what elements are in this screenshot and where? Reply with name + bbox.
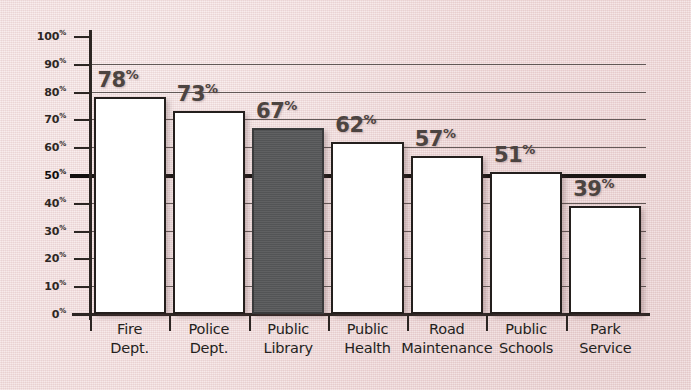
y-tick-40 bbox=[74, 203, 90, 205]
y-axis-label-10: 10% bbox=[20, 279, 66, 293]
y-axis-line bbox=[89, 30, 92, 320]
y-axis-label-0: 0% bbox=[20, 307, 66, 321]
value-label-3: 62% bbox=[335, 112, 376, 137]
value-label-2: 67% bbox=[256, 98, 297, 123]
bar-public-schools[interactable] bbox=[490, 172, 562, 314]
x-tick-5 bbox=[486, 316, 488, 331]
x-tick-2 bbox=[249, 316, 251, 331]
value-label-5: 51% bbox=[494, 142, 535, 167]
y-tick-80 bbox=[74, 92, 90, 94]
bar-fire-dept[interactable] bbox=[94, 97, 166, 314]
x-tick-6 bbox=[566, 316, 568, 331]
bar-chart: 100%90%80%70%60%50%40%30%20%10%0% 78%73%… bbox=[0, 0, 691, 390]
x-tick-1 bbox=[169, 316, 171, 331]
y-tick-100 bbox=[74, 36, 90, 38]
y-axis-label-100: 100% bbox=[20, 29, 66, 43]
y-axis-label-20: 20% bbox=[20, 251, 66, 265]
x-tick-0 bbox=[90, 316, 92, 331]
gridline-80 bbox=[90, 92, 646, 93]
x-tick-4 bbox=[407, 316, 409, 331]
y-tick-90 bbox=[74, 64, 90, 66]
y-tick-70 bbox=[74, 119, 90, 121]
y-tick-60 bbox=[74, 147, 90, 149]
y-axis-label-30: 30% bbox=[20, 224, 66, 238]
y-axis-label-70: 70% bbox=[20, 112, 66, 126]
value-label-1: 73% bbox=[177, 81, 218, 106]
bar-police-dept[interactable] bbox=[173, 111, 245, 314]
value-label-0: 78% bbox=[98, 67, 139, 92]
gridline-90 bbox=[90, 64, 646, 65]
bar-public-health[interactable] bbox=[331, 142, 403, 314]
y-axis-label-50: 50% bbox=[20, 168, 66, 182]
y-axis-label-40: 40% bbox=[20, 196, 66, 210]
x-axis-label-6: Park Service bbox=[558, 320, 653, 358]
y-axis-label-60: 60% bbox=[20, 140, 66, 154]
y-tick-10 bbox=[74, 286, 90, 288]
y-tick-20 bbox=[74, 258, 90, 260]
bar-public-library[interactable] bbox=[252, 128, 324, 314]
bar-park-service[interactable] bbox=[569, 206, 641, 314]
y-tick-30 bbox=[74, 231, 90, 233]
bar-road-maintenance[interactable] bbox=[411, 156, 483, 314]
x-tick-3 bbox=[328, 316, 330, 331]
y-axis-label-90: 90% bbox=[20, 57, 66, 71]
y-axis-label-80: 80% bbox=[20, 85, 66, 99]
value-label-4: 57% bbox=[415, 126, 456, 151]
value-label-6: 39% bbox=[573, 176, 614, 201]
